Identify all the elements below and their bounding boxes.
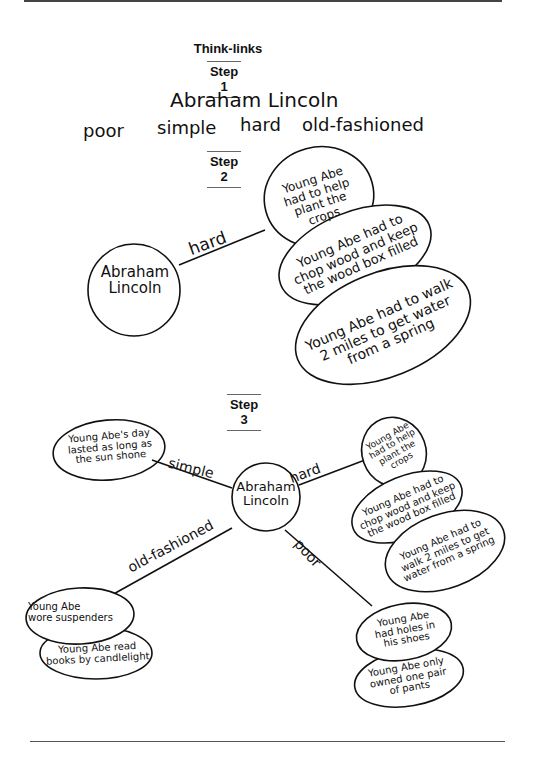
step3-old-fashioned-detail-1: Young Abe wore suspenders bbox=[28, 602, 133, 623]
step2-center-node: Abraham Lincoln bbox=[90, 265, 180, 297]
step-3-heading: Step 3 bbox=[227, 394, 261, 431]
bottom-rule bbox=[30, 741, 505, 742]
